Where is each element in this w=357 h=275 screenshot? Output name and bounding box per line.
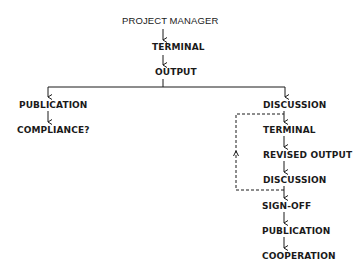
node-cooperation: COOPERATION (262, 251, 336, 261)
node-project-manager: PROJECT MANAGER (122, 16, 218, 26)
node-publication-right: PUBLICATION (262, 226, 331, 236)
node-revised-output: REVISED OUTPUT (263, 150, 352, 160)
node-discussion-2: DISCUSSION (263, 175, 326, 185)
node-terminal: TERMINAL (152, 42, 205, 52)
node-publication-left: PUBLICATION (19, 100, 88, 110)
node-discussion-1: DISCUSSION (263, 100, 326, 110)
node-output: OUTPUT (155, 67, 197, 77)
node-sign-off: SIGN-OFF (262, 201, 311, 211)
node-terminal-right: TERMINAL (263, 125, 316, 135)
node-compliance: COMPLIANCE? (17, 125, 89, 135)
